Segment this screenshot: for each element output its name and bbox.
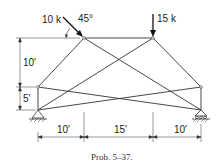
pin-support-left bbox=[29, 110, 47, 122]
load-angle-label: 45° bbox=[78, 13, 93, 24]
dim-5ft-vertical: 5′ bbox=[23, 93, 31, 104]
truss-members bbox=[38, 38, 201, 110]
load-15k-arrow-icon bbox=[150, 14, 156, 37]
dim-10ft-vertical: 10′ bbox=[23, 57, 36, 68]
load-15k-label: 15 k bbox=[157, 13, 177, 24]
figure-caption: Prob. 5–37. bbox=[91, 152, 133, 162]
dim-10ft-right: 10′ bbox=[174, 124, 187, 135]
roller-support-right bbox=[192, 110, 210, 122]
dim-10ft-left: 10′ bbox=[57, 124, 70, 135]
dim-15ft-middle: 15′ bbox=[114, 124, 127, 135]
truss-diagram: 10 k 45° 15 k 10′ 5′ 10′ 15′ 10′ Prob. 5… bbox=[0, 0, 224, 166]
load-10k-label: 10 k bbox=[42, 14, 62, 25]
